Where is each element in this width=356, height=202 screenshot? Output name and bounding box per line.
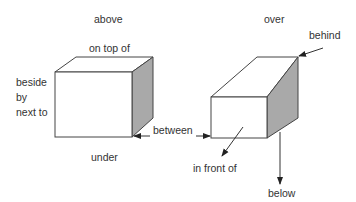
label-beside: beside	[16, 76, 47, 88]
left-cube	[55, 57, 153, 137]
label-over: over	[264, 13, 284, 25]
label-under: under	[91, 151, 118, 163]
label-above: above	[94, 13, 123, 25]
label-below: below	[268, 187, 295, 199]
diagram-canvas	[0, 0, 356, 202]
label-on-top-of: on top of	[89, 42, 130, 54]
label-by: by	[16, 91, 27, 103]
label-next-to: next to	[16, 106, 48, 118]
label-between: between	[153, 124, 193, 136]
label-behind: behind	[309, 29, 341, 41]
right-cube	[211, 57, 298, 138]
label-in-front-of: in front of	[193, 162, 237, 174]
left-cube-front-face	[55, 72, 132, 137]
behind-arrow	[299, 48, 323, 56]
